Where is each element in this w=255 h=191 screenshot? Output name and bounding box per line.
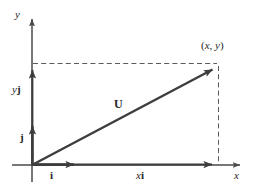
x-axis-label: x (234, 170, 239, 181)
x-component-basis: i (141, 169, 144, 181)
vector-U-label: U (114, 98, 123, 110)
resultant-vector-group (32, 70, 213, 166)
y-axis-label: y (15, 9, 20, 20)
paren-close: ) (220, 39, 224, 51)
unit-vector-i-label: i (50, 170, 53, 181)
point-coordinates-label: (x, y) (201, 40, 224, 51)
vector-U-arrow (32, 70, 213, 166)
unit-vector-j-label: j (20, 132, 24, 143)
vector-diagram-canvas (0, 0, 255, 191)
y-component-basis: j (17, 83, 21, 95)
vector-components-figure: y x yj j i xi U (x, y) (0, 0, 255, 191)
x-component-label: xi (136, 170, 144, 181)
y-component-label: yj (12, 84, 21, 95)
